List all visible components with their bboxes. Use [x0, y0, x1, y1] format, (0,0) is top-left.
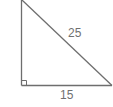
right-triangle [22, 0, 113, 86]
triangle-diagram: 25 15 [0, 0, 113, 107]
hypotenuse [22, 0, 112, 86]
hypotenuse-label: 25 [68, 26, 82, 40]
right-angle-marker-icon [22, 81, 27, 86]
base-label: 15 [60, 88, 74, 102]
